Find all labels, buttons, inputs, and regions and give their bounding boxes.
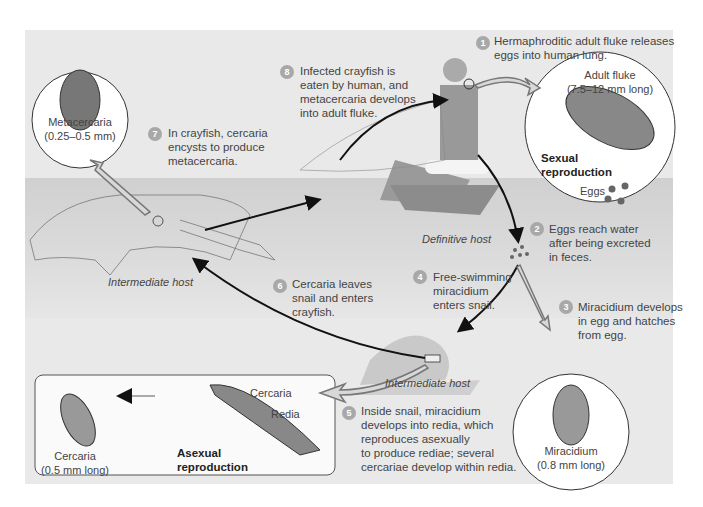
step-3-text: Miracidium develops in egg and hatches f… (578, 300, 683, 342)
step-8-line: metacercaria develops (300, 92, 416, 106)
step-1-line: eggs into human lung. (494, 48, 674, 62)
miracidium-size: (0.8 mm long) (531, 458, 611, 472)
note-line: reproduction (541, 165, 612, 179)
redia-cercaria-label: Cercaria (250, 386, 292, 400)
miracidium-label: Miracidium (0.8 mm long) (531, 444, 611, 472)
step-4-text: Free-swimming miracidium enters snail. (433, 270, 512, 312)
step-8-line: Infected crayfish is (300, 64, 416, 78)
note-line: Sexual (541, 151, 612, 165)
step-1-text: Hermaphroditic adult fluke releases eggs… (494, 34, 674, 62)
asexual-reproduction-label: Asexual reproduction (177, 446, 248, 474)
redia-label: Redia (271, 407, 300, 421)
step-badge-1: 1 (476, 36, 490, 50)
adult-fluke-label: Adult fluke (7.5–12 mm long) (560, 68, 660, 96)
step-8-line: into adult fluke. (300, 106, 416, 120)
crayfish-icon (30, 195, 275, 275)
cercaria-name: Cercaria (40, 449, 110, 463)
step-5-line: develops into redia, which (361, 418, 516, 432)
step-5-line: reproduces asexually (361, 432, 516, 446)
definitive-host-label: Definitive host (422, 233, 491, 245)
step-2-text: Eggs reach water after being excreted in… (549, 222, 651, 264)
step-badge-7: 7 (148, 127, 162, 141)
step-2-line: in feces. (549, 250, 651, 264)
adult-fluke-size: (7.5–12 mm long) (560, 82, 660, 96)
adult-fluke-name: Adult fluke (560, 68, 660, 82)
metacercaria-size: (0.25–0.5 mm) (40, 129, 120, 143)
step-7-text: In crayfish, cercaria encysts to produce… (168, 126, 268, 168)
metacercaria-name: Metacercaria (40, 115, 120, 129)
cercaria-size: (0.5 mm long) (40, 463, 110, 477)
step-2-line: Eggs reach water (549, 222, 651, 236)
step-badge-5: 5 (342, 406, 356, 420)
note-line: Asexual (177, 446, 248, 460)
step-3-line: from egg. (578, 328, 683, 342)
step-8-line: eaten by human, and (300, 78, 416, 92)
step-3-line: Miracidium develops (578, 300, 683, 314)
step-6-line: Cercaria leaves (292, 277, 373, 291)
miracidium-name: Miracidium (531, 444, 611, 458)
step-7-line: metacercaria. (168, 154, 268, 168)
step-6-line: crayfish. (292, 305, 373, 319)
step-5-line: Inside snail, miracidium (361, 404, 516, 418)
step-5-line: cercariae develop within redia. (361, 460, 516, 474)
step-badge-6: 6 (273, 279, 287, 293)
step-2-line: after being excreted (549, 236, 651, 250)
step-8-text: Infected crayfish is eaten by human, and… (300, 64, 416, 120)
step-6-line: snail and enters (292, 291, 373, 305)
step-4-line: miracidium (433, 284, 512, 298)
step-badge-2: 2 (530, 222, 544, 236)
sexual-reproduction-label: Sexual reproduction (541, 151, 612, 179)
step-3-line: in egg and hatches (578, 314, 683, 328)
step-7-line: encysts to produce (168, 140, 268, 154)
step-5-line: to produce rediae; several (361, 446, 516, 460)
step-badge-8: 8 (280, 65, 294, 79)
step-6-text: Cercaria leaves snail and enters crayfis… (292, 277, 373, 319)
note-line: reproduction (177, 460, 248, 474)
step-badge-4: 4 (413, 270, 427, 284)
step-4-line: Free-swimming (433, 270, 512, 284)
step-5-text: Inside snail, miracidium develops into r… (361, 404, 516, 474)
step-1-line: Hermaphroditic adult fluke releases (494, 34, 674, 48)
snail-host-label: Intermediate host (385, 377, 470, 389)
eggs-label: Eggs (580, 184, 605, 198)
step-7-line: In crayfish, cercaria (168, 126, 268, 140)
step-4-line: enters snail. (433, 298, 512, 312)
crayfish-host-label: Intermediate host (108, 276, 193, 288)
step-badge-3: 3 (559, 300, 573, 314)
metacercaria-label: Metacercaria (0.25–0.5 mm) (40, 115, 120, 143)
cercaria-label: Cercaria (0.5 mm long) (40, 449, 110, 477)
